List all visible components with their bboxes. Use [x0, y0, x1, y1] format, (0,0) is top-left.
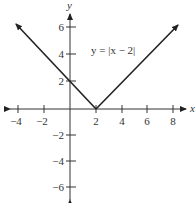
y-tick-labels: 6 4 2 −2 −4 −6: [52, 21, 64, 193]
y-ticks: [66, 27, 76, 187]
svg-text:2: 2: [59, 75, 65, 87]
graph-right-branch: [96, 25, 178, 109]
svg-text:4: 4: [59, 48, 65, 60]
x-tick-labels: −4 −2 2 4 6 8: [10, 115, 176, 127]
equation-label: y = |x − 2|: [91, 44, 135, 56]
abs-value-graph: −4 −2 2 4 6 8 6 4 2 −2 −4 −6 y x y = |x …: [0, 0, 196, 203]
svg-text:6: 6: [59, 21, 65, 33]
graph-left-branch: [16, 24, 96, 109]
y-axis-label: y: [66, 0, 72, 11]
svg-text:4: 4: [119, 115, 125, 127]
svg-text:−2: −2: [36, 115, 48, 127]
svg-text:6: 6: [144, 115, 150, 127]
svg-text:−6: −6: [52, 181, 64, 193]
svg-text:−4: −4: [52, 155, 64, 167]
x-axis-label: x: [189, 102, 195, 114]
svg-text:2: 2: [93, 115, 99, 127]
svg-text:8: 8: [170, 115, 176, 127]
svg-text:−4: −4: [10, 115, 22, 127]
svg-text:−2: −2: [52, 129, 64, 141]
